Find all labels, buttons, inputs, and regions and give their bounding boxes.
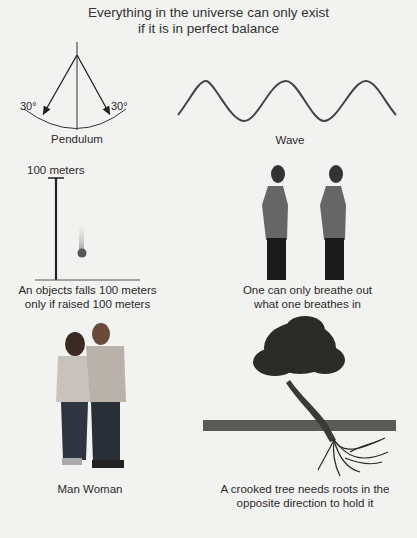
- breathing-caption: One can only breathe out what one breath…: [235, 283, 380, 311]
- tree-diagram: [203, 316, 396, 476]
- tree-canopy: [253, 316, 345, 376]
- pendulum-caption: Pendulum: [37, 132, 117, 146]
- wave-caption: Wave: [260, 133, 320, 147]
- tree-roots: [318, 438, 388, 476]
- pendulum-diagram: [24, 42, 126, 130]
- wave-curve: [178, 81, 396, 121]
- breathing-caption-line-2: what one breathes in: [235, 297, 380, 311]
- height-label: 100 meters: [27, 163, 85, 177]
- falling-caption-line-2: only if raised 100 meters: [15, 297, 160, 311]
- illustrations: [0, 0, 417, 538]
- falling-object-diagram: [35, 178, 140, 280]
- pendulum-left-arrow: [44, 55, 77, 113]
- tree-caption: A crooked tree needs roots in the opposi…: [205, 482, 405, 510]
- couple-figure: [56, 323, 126, 468]
- pendulum-right-arrow: [77, 55, 109, 113]
- pendulum-right-angle: 30°: [111, 99, 128, 113]
- pendulum-left-angle: 30°: [20, 99, 37, 113]
- person-breathing-out: [262, 165, 288, 280]
- man-figure: [86, 323, 126, 468]
- breathing-caption-line-1: One can only breathe out: [235, 283, 380, 297]
- falling-object-caption: An objects falls 100 meters only if rais…: [15, 283, 160, 311]
- woman-figure: [56, 332, 90, 465]
- tree-caption-line-2: opposite direction to hold it: [205, 496, 405, 510]
- falling-ball: [78, 249, 87, 258]
- breathing-figures: [262, 165, 346, 280]
- tree-caption-line-1: A crooked tree needs roots in the: [205, 482, 405, 496]
- falling-caption-line-1: An objects falls 100 meters: [15, 283, 160, 297]
- tree-trunk: [286, 380, 336, 442]
- person-breathing-in: [320, 165, 346, 280]
- ground-strip: [203, 420, 396, 431]
- couple-caption: Man Woman: [40, 482, 140, 496]
